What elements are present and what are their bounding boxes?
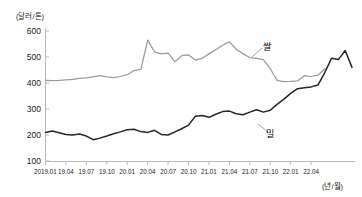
y-tick-label-600: 600 — [27, 26, 41, 36]
x-axis-unit-label: (년/월) — [322, 181, 344, 191]
rice-leader-line — [252, 48, 262, 57]
x-tick-label: 22.01 — [283, 168, 299, 175]
x-axis-tick-labels: 2019.0119.0419.0719.1020.0120.0420.0720.… — [34, 168, 319, 175]
x-axis-ticks — [46, 162, 312, 166]
x-tick-label: 21.10 — [262, 168, 278, 175]
y-tick-label-400: 400 — [27, 78, 41, 88]
series-label-wheat: 밀 — [266, 128, 274, 139]
series-label-rice: 쌀 — [263, 42, 271, 52]
y-tick-label-500: 500 — [27, 52, 41, 62]
x-tick-label: 19.04 — [58, 168, 74, 175]
x-tick-label: 20.10 — [181, 168, 197, 175]
x-tick-label: 22.04 — [303, 168, 319, 175]
x-tick-label: 20.01 — [119, 168, 135, 175]
x-tick-label: 21.04 — [222, 168, 238, 175]
x-tick-label: 20.07 — [160, 168, 176, 175]
y-tick-label-300: 300 — [27, 104, 41, 114]
y-tick-label-200: 200 — [27, 130, 41, 140]
series-line-wheat — [46, 51, 353, 140]
x-tick-label: 20.04 — [140, 168, 156, 175]
line-chart: (달러/톤) 600 500 400 300 200 100 2019.0119… — [0, 0, 362, 197]
x-tick-label: 19.07 — [78, 168, 94, 175]
y-axis-unit-label: (달러/톤) — [16, 12, 45, 21]
y-tick-label-100: 100 — [27, 156, 41, 166]
series-line-rice — [46, 40, 325, 82]
x-tick-label: 21.01 — [201, 168, 217, 175]
x-tick-label: 19.10 — [99, 168, 115, 175]
x-tick-label: 2019.01 — [34, 168, 57, 175]
chart-container: (달러/톤) 600 500 400 300 200 100 2019.0119… — [0, 0, 362, 197]
x-tick-label: 21.07 — [242, 168, 258, 175]
